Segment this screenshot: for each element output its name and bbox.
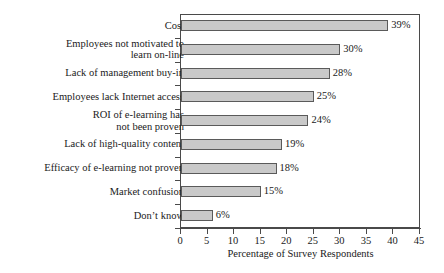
bar <box>181 186 261 197</box>
x-axis-tick-label: 45 <box>404 235 434 247</box>
category-label: Employees not motivated to learn on-line <box>4 38 184 61</box>
bar <box>181 210 213 221</box>
x-axis-tick-label: 30 <box>324 235 354 247</box>
bar-row: Market confusion15% <box>0 180 444 204</box>
x-axis-tick <box>207 229 208 234</box>
bar-value-label: 24% <box>311 114 330 126</box>
bar-value-label: 18% <box>280 162 299 174</box>
bar-value-label: 28% <box>333 67 352 79</box>
bar-value-label: 30% <box>343 43 362 55</box>
bar-value-label: 15% <box>264 185 283 197</box>
category-label: Cost <box>4 20 184 32</box>
x-axis-tick-label: 25 <box>298 235 328 247</box>
x-axis-title: Percentage of Survey Respondents <box>180 247 421 260</box>
bar-row: Lack of high-quality content19% <box>0 133 444 157</box>
category-label: Lack of high-quality content <box>4 138 184 150</box>
category-label: Lack of management buy-in <box>4 67 184 79</box>
bar-chart: Cost39%Employees not motivated to learn … <box>0 0 444 273</box>
x-axis-tick <box>366 229 367 234</box>
category-label: Market confusion <box>4 186 184 198</box>
x-axis-tick <box>286 229 287 234</box>
bar-value-label: 19% <box>285 138 304 150</box>
bar <box>181 115 308 126</box>
x-axis-tick <box>392 229 393 234</box>
x-axis-tick-label: 5 <box>192 235 222 247</box>
category-label: ROI of e-learning has not been proven <box>4 109 184 132</box>
category-label: Employees lack Internet access <box>4 91 184 103</box>
bar-row: ROI of e-learning has not been proven24% <box>0 109 444 133</box>
bar <box>181 91 314 102</box>
bar <box>181 163 277 174</box>
x-axis-tick <box>180 229 181 234</box>
bar-row: Cost39% <box>0 14 444 38</box>
category-label: Efficacy of e-learning not proven <box>4 162 184 174</box>
x-axis-tick-label: 20 <box>271 235 301 247</box>
bar-row: Employees lack Internet access25% <box>0 85 444 109</box>
bar <box>181 44 340 55</box>
bar-row: Lack of management buy-in28% <box>0 62 444 86</box>
x-axis-tick <box>260 229 261 234</box>
x-axis-tick-label: 10 <box>218 235 248 247</box>
bar <box>181 68 330 79</box>
bar <box>181 20 388 31</box>
x-axis: 051015202530354045 <box>180 228 421 230</box>
bar-value-label: 39% <box>391 19 410 31</box>
x-axis-tick-label: 40 <box>377 235 407 247</box>
x-axis-tick-label: 35 <box>351 235 381 247</box>
x-axis-tick <box>339 229 340 234</box>
bar <box>181 139 282 150</box>
bar-row: Efficacy of e-learning not proven18% <box>0 157 444 181</box>
x-axis-tick <box>313 229 314 234</box>
bar-row: Employees not motivated to learn on-line… <box>0 38 444 62</box>
bar-rows: Cost39%Employees not motivated to learn … <box>0 14 444 228</box>
x-axis-tick-label: 0 <box>165 235 195 247</box>
x-axis-tick <box>419 229 420 234</box>
x-axis-tick <box>233 229 234 234</box>
x-axis-tick-label: 15 <box>245 235 275 247</box>
category-label: Don’t know <box>4 210 184 222</box>
bar-value-label: 25% <box>317 90 336 102</box>
bar-row: Don’t know6% <box>0 204 444 228</box>
bar-value-label: 6% <box>216 209 230 221</box>
